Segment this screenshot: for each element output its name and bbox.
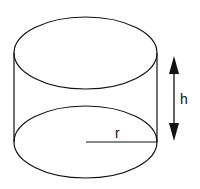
height-label: h: [180, 91, 188, 107]
cylinder-shape: [14, 17, 157, 178]
radius-label: r: [115, 125, 120, 141]
height-arrow: [169, 56, 179, 141]
arrow-down-icon: [169, 123, 179, 141]
cylinder-diagram: h r: [0, 0, 200, 189]
top-ellipse: [14, 17, 157, 89]
arrow-up-icon: [169, 56, 179, 74]
